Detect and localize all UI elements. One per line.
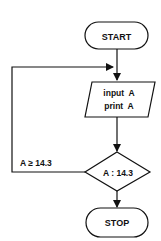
- start-label: START: [102, 32, 132, 42]
- loop-condition-label: A ≥ 14.3: [20, 158, 52, 168]
- stop-label: STOP: [105, 218, 129, 228]
- start-terminal: START: [85, 22, 148, 49]
- io-line-1: input A: [103, 88, 134, 98]
- stop-terminal: STOP: [86, 208, 148, 237]
- flowchart: START input A print A A : 14.3 A ≥ 14.3 …: [0, 0, 161, 241]
- decision-diamond: A : 14.3: [85, 152, 150, 191]
- io-line-2: print A: [104, 101, 133, 111]
- io-parallelogram: input A print A: [85, 82, 155, 117]
- decision-label: A : 14.3: [103, 168, 133, 178]
